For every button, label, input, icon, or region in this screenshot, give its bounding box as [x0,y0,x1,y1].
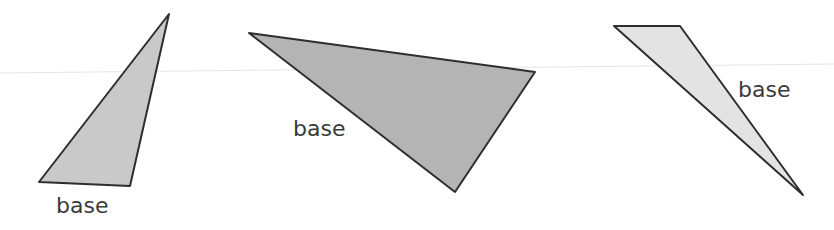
triangle-2-base-label: base [293,118,345,140]
triangle-3 [614,26,803,195]
triangle-1 [39,14,169,186]
triangle-3-base-label: base [738,79,790,101]
triangles-diagram [0,0,834,230]
triangle-2 [249,33,535,192]
triangle-1-base-label: base [56,195,108,217]
